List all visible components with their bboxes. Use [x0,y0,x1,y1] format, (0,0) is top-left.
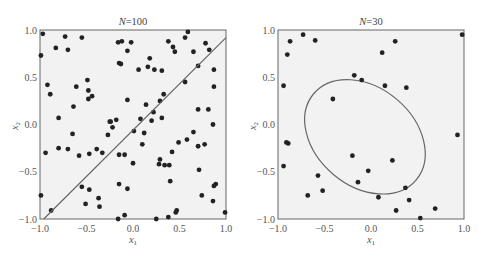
data-point [56,115,61,120]
data-point [147,56,152,61]
data-point [79,184,84,189]
data-point [288,39,293,44]
data-point [122,213,127,218]
data-point [117,182,122,187]
data-point [108,119,113,124]
data-point [203,41,208,46]
data-point [313,38,318,43]
data-point [86,97,91,102]
y-tick-label: −0.5 [257,166,275,177]
data-point [170,150,175,155]
data-point [301,32,306,37]
data-point [53,46,58,51]
x-axis-ticks: −1.0−0.50.00.51.0 [31,223,232,234]
data-point [166,39,171,44]
data-point [197,167,202,172]
data-point [157,162,162,167]
y-axis-label: x2 [9,121,22,131]
x-tick-label: −1.0 [269,223,287,234]
data-point [86,88,91,93]
data-point [39,193,44,198]
data-point [176,140,181,145]
data-point [316,173,321,178]
panel-title: N=30 [358,16,382,27]
data-point [96,196,101,201]
data-point [66,147,71,152]
data-point [158,157,163,162]
data-point [330,97,335,102]
y-axis-label: x2 [247,121,260,131]
data-point [285,52,290,57]
data-point [56,146,61,151]
data-point [191,130,196,135]
x-tick-label: −1.0 [31,223,49,234]
data-point [162,163,167,168]
data-point [212,84,217,89]
data-point [359,78,364,83]
x-tick-label: −0.5 [315,223,333,234]
y-tick-label: 1.0 [25,25,38,36]
data-point [117,152,122,157]
scatter-panel-n100: N=100 −1.0−0.50.00.51.0 1.00.50.0−0.5−1.… [9,16,232,247]
x-tick-label: 1.0 [220,223,233,234]
x-tick-label: −0.5 [77,223,95,234]
data-point [172,49,177,54]
data-point [206,107,211,112]
data-point [281,164,286,169]
data-point [129,40,134,45]
data-point [171,45,176,50]
data-point [376,195,381,200]
data-point [131,161,136,166]
data-point [48,92,53,97]
data-point [159,68,164,73]
data-point [350,153,355,158]
data-point [39,53,44,58]
y-tick-label: −0.5 [19,166,37,177]
data-point [196,107,201,112]
data-point [94,147,99,152]
data-point [159,115,164,120]
y-tick-label: 0.5 [263,72,276,83]
x-axis-label: x1 [366,234,376,247]
data-point [119,62,124,67]
data-point [185,137,190,142]
data-point [394,208,399,213]
data-point [455,132,460,137]
data-point [212,184,217,189]
x-tick-label: 1.0 [458,223,471,234]
data-point [211,122,216,127]
data-point [380,50,385,55]
data-point [40,31,45,36]
data-point [407,198,412,203]
data-point [87,151,92,156]
y-tick-label: 0.0 [25,119,38,130]
data-point [66,47,71,52]
data-point [87,187,92,192]
data-point [393,39,398,44]
data-point [116,217,121,222]
data-point [43,150,48,155]
data-point [161,92,166,97]
x-axis-label: x1 [128,234,138,247]
data-point [166,215,171,220]
data-point [320,188,325,193]
y-tick-label: −1.0 [19,214,37,225]
data-point [110,125,115,130]
data-point [74,84,79,89]
data-point [140,142,145,147]
data-point [63,34,68,39]
plot-area [40,30,226,219]
chart-figure: N=100 −1.0−0.50.00.51.0 1.00.50.0−0.5−1.… [0,0,478,261]
data-point [125,98,130,103]
x-tick-label: 0.5 [411,223,424,234]
data-point [142,131,147,136]
data-point [100,150,105,155]
plot-area [278,30,464,219]
data-point [211,199,216,204]
data-point [403,185,408,190]
data-point [183,35,188,40]
data-point [125,48,130,53]
data-point [97,204,102,209]
data-point [212,67,217,72]
panel-title: N=100 [118,16,148,27]
